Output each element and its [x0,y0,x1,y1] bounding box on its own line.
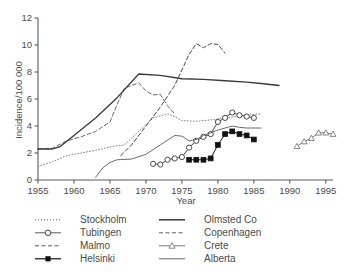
y-axis-tick-label: 2 [27,147,32,158]
legend-square-marker [45,256,50,261]
legend-item-label: Malmo [80,240,110,251]
y-axis-tick-label: 10 [21,39,32,50]
data-point-marker [237,113,242,118]
data-point-marker [208,156,213,161]
series-olmsted-co [38,74,279,149]
chart-legend: StockholmTubingenMalmoHelsinkiOlmsted Co… [35,214,261,264]
legend-circle-marker [45,230,51,236]
x-axis-tick-label: 1990 [279,185,300,196]
data-point-marker [294,143,300,148]
y-axis-tick-label: 12 [21,12,32,23]
legend-item-stockholm[interactable]: Stockholm [35,214,127,225]
legend-item-malmo[interactable]: Malmo [35,240,110,251]
data-point-marker [186,145,191,150]
chart-figure: Incidence/100 000 Year 024681012 1955196… [0,0,345,275]
x-axis-tick-label: 1980 [207,185,228,196]
series-line [121,44,225,156]
data-point-marker [194,157,199,162]
x-axis-title: Year [176,195,195,206]
x-axis-tick-label: 1995 [315,185,336,196]
y-axis-tick-label: 0 [27,174,32,185]
x-axis-tick-label: 1970 [135,185,156,196]
legend-item-label: Helsinki [80,253,115,264]
x-axis: 195519601965197019751980198519901995 [27,180,336,196]
data-point-marker [222,115,227,120]
incidence-line-chart: Incidence/100 000 Year 024681012 1955196… [0,0,345,275]
data-point-marker [244,133,249,138]
series-line [38,74,279,149]
legend-item-label: Stockholm [80,214,127,225]
series-helsinki [187,129,257,162]
data-series-layer [38,44,336,178]
data-point-marker [201,157,206,162]
legend-item-label: Alberta [204,253,236,264]
x-axis-tick-label: 1975 [171,185,192,196]
y-axis-title: Incidence/100 000 [13,61,24,139]
legend-item-label: Crete [204,240,229,251]
data-point-marker [172,156,177,161]
series-line [38,114,261,167]
legend-item-alberta[interactable]: Alberta [159,253,236,264]
series-line [96,126,261,177]
x-axis-tick-label: 1960 [63,185,84,196]
legend-item-crete[interactable]: Crete [159,240,229,251]
y-axis-tick-label: 4 [27,120,32,131]
legend-item-label: Olmsted Co [204,214,257,225]
legend-item-label: Tubingen [80,227,121,238]
data-point-marker [215,119,220,124]
series-crete [294,130,336,149]
series-alberta [96,126,261,177]
legend-item-copenhagen[interactable]: Copenhagen [159,227,261,238]
legend-item-label: Copenhagen [204,227,261,238]
series-copenhagen [121,44,225,156]
y-axis-tick-label: 8 [27,66,32,77]
legend-item-tubingen[interactable]: Tubingen [35,227,121,238]
y-axis-tick-label: 6 [27,93,32,104]
data-point-marker [251,115,256,120]
data-point-marker [244,114,249,119]
data-point-marker [158,162,163,167]
legend-item-helsinki[interactable]: Helsinki [35,253,115,264]
series-stockholm [38,114,261,167]
data-point-marker [230,129,235,134]
data-point-marker [251,137,256,142]
data-point-marker [151,161,156,166]
data-point-marker [301,139,307,144]
data-point-marker [187,157,192,162]
x-axis-tick-label: 1965 [99,185,120,196]
data-point-marker [165,157,170,162]
legend-item-olmsted-co[interactable]: Olmsted Co [159,214,257,225]
x-axis-tick-label: 1985 [243,185,264,196]
x-axis-tick-label: 1955 [27,185,48,196]
data-point-marker [179,154,184,159]
data-point-marker [215,143,220,148]
data-point-marker [237,132,242,137]
data-point-marker [230,110,235,115]
data-point-marker [223,132,228,137]
data-point-marker [309,135,315,140]
